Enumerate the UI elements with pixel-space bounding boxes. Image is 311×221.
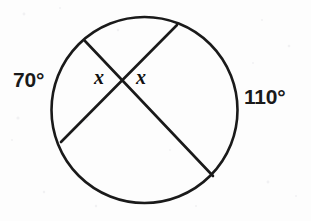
circle-outline <box>52 17 238 203</box>
circle-chords-drawing <box>0 0 311 221</box>
angle-label-right: x <box>136 67 146 87</box>
angle-label-left: x <box>94 67 104 87</box>
chord-upper-left-to-lower-right <box>85 41 213 176</box>
arc-measure-right-label: 110° <box>244 86 285 107</box>
geometry-figure: 70° 110° x x <box>0 0 311 221</box>
arc-measure-left-label: 70° <box>13 69 44 90</box>
chord-upper-right-to-lower-left <box>61 25 177 142</box>
